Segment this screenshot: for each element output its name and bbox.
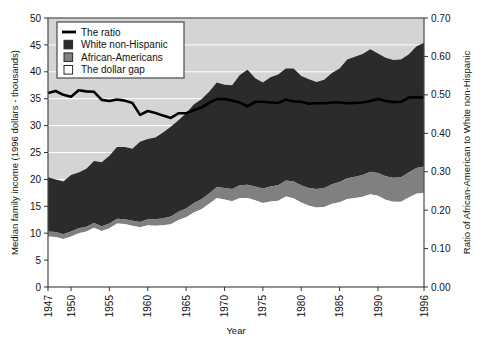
- x-tick-label: 1975: [257, 295, 268, 318]
- x-tick-label: 1950: [66, 295, 77, 318]
- y-axis-right-label: Ratio of African-American to White non-H…: [461, 51, 472, 255]
- legend-label: White non-Hispanic: [81, 39, 168, 50]
- y-tick-left-label: 15: [30, 201, 42, 212]
- y-tick-right-label: 0.40: [431, 128, 451, 139]
- y-tick-left-label: 20: [30, 174, 42, 185]
- x-tick-label: 1955: [104, 295, 115, 318]
- y-tick-right-label: 0.20: [431, 205, 451, 216]
- x-tick-label: 1985: [334, 295, 345, 318]
- x-tick-label: 1965: [181, 295, 192, 318]
- y-tick-left-label: 30: [30, 120, 42, 131]
- y-tick-left-label: 50: [30, 13, 42, 24]
- x-tick-label: 1990: [373, 295, 384, 318]
- y-tick-right-label: 0.00: [431, 282, 451, 293]
- y-tick-right-label: 0.60: [431, 51, 451, 62]
- y-tick-left-label: 40: [30, 66, 42, 77]
- chart-legend: The ratioWhite non-HispanicAfrican-Ameri…: [57, 22, 184, 78]
- y-tick-right-label: 0.70: [431, 13, 451, 24]
- y-tick-left-label: 0: [35, 282, 41, 293]
- legend-swatch-square: [64, 66, 73, 75]
- y-tick-left-label: 25: [30, 147, 42, 158]
- y-tick-right-label: 0.30: [431, 166, 451, 177]
- income-ratio-area-chart: 05101520253035404550 0.000.100.200.300.4…: [0, 0, 489, 346]
- x-tick-label: 1996: [419, 295, 430, 318]
- legend-swatch-square: [64, 53, 73, 62]
- y-tick-left-label: 45: [30, 40, 42, 51]
- legend-label: The dollar gap: [81, 64, 145, 75]
- chart-figure: 05101520253035404550 0.000.100.200.300.4…: [0, 0, 489, 346]
- legend-swatch-square: [64, 40, 73, 49]
- x-tick-label: 1970: [219, 295, 230, 318]
- y-tick-right-label: 0.10: [431, 243, 451, 254]
- x-tick-label: 1947: [43, 295, 54, 318]
- x-tick-label: 1960: [142, 295, 153, 318]
- y-tick-right-label: 0.50: [431, 89, 451, 100]
- legend-label: The ratio: [81, 27, 121, 38]
- y-tick-left-label: 10: [30, 228, 42, 239]
- y-tick-left-label: 5: [35, 255, 41, 266]
- y-axis-left-label: Median family income (1996 dollars - tho…: [9, 50, 20, 255]
- y-tick-left-label: 35: [30, 93, 42, 104]
- x-tick-label: 1980: [296, 295, 307, 318]
- legend-label: African-Americans: [81, 52, 163, 63]
- x-axis-label: Year: [226, 325, 245, 336]
